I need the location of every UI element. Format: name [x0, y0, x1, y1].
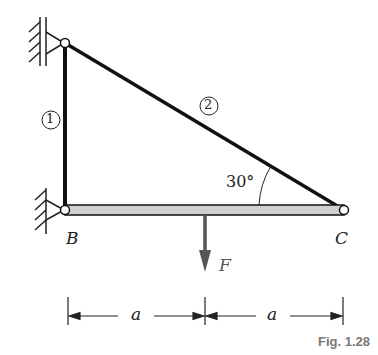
dimension-lines	[68, 297, 343, 325]
pin-c	[340, 206, 349, 215]
pin-b	[61, 206, 70, 215]
dimension-a-right: a	[267, 304, 277, 324]
point-c-label: C	[335, 228, 348, 248]
force-arrow	[199, 215, 211, 272]
member-1-label: 1	[46, 111, 54, 126]
angle-arc	[259, 166, 271, 205]
truss-diagram	[0, 0, 378, 355]
force-label: F	[219, 255, 231, 275]
pin-top	[61, 39, 70, 48]
bottom-wall-support	[35, 188, 64, 234]
member-2	[65, 43, 344, 210]
top-wall-support	[29, 17, 64, 66]
figure-caption: Fig. 1.28	[318, 334, 370, 349]
member-2-label: 2	[204, 97, 212, 112]
beam-bc	[65, 205, 344, 215]
point-b-label: B	[66, 228, 79, 248]
angle-label: 30°	[226, 172, 254, 191]
dimension-a-left: a	[131, 304, 141, 324]
